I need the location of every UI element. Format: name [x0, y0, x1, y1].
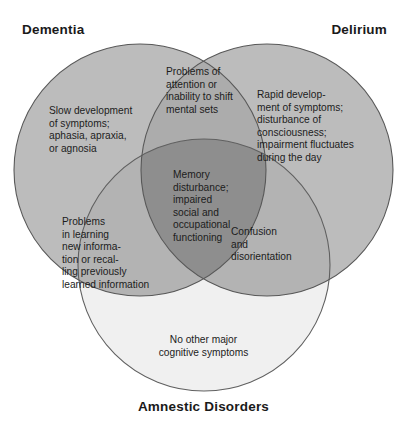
region-text-dementia-delirium-overlap: Problems of attention or inability to sh… [166, 66, 233, 116]
region-text-amnestic-only: No other major cognitive symptoms [0, 334, 407, 359]
set-label-delirium: Delirium [331, 22, 387, 37]
venn-diagram-figure: Dementia Delirium Amnestic Disorders Slo… [0, 0, 407, 422]
set-label-dementia: Dementia [22, 22, 84, 37]
region-text-dementia-amnestic-overlap: Problems in learning new informa- tion o… [62, 216, 149, 292]
region-text-delirium-only: Rapid develop- ment of symptoms; disturb… [257, 89, 354, 165]
set-label-amnestic-disorders: Amnestic Disorders [0, 399, 407, 414]
region-text-all-three-overlap: Memory disturbance; impaired social and … [173, 169, 230, 245]
region-text-delirium-amnestic-overlap: Confusion and disorientation [231, 226, 292, 264]
region-text-dementia-only: Slow development of symptoms; aphasia, a… [49, 105, 132, 155]
